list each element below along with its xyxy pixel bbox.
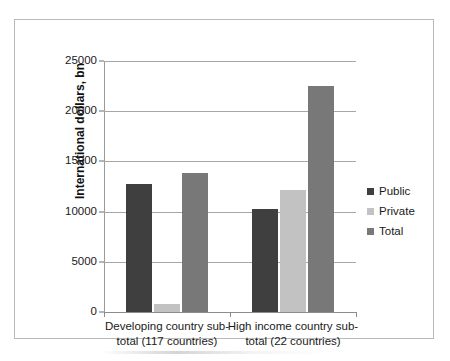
x-axis-tick-mark <box>230 312 231 317</box>
chart-figure: International dollars, bn 25000200001500… <box>0 0 450 361</box>
bar-private-1 <box>154 304 180 312</box>
bar-group <box>230 61 356 312</box>
legend-item-total: Total <box>367 221 439 241</box>
plot-area <box>104 61 356 312</box>
x-axis-tick-mark <box>104 312 105 317</box>
legend-item-private: Private <box>367 201 439 221</box>
legend-label: Private <box>379 205 415 217</box>
legend-item-public: Public <box>367 181 439 201</box>
y-axis-tick-marks <box>15 61 105 312</box>
legend-swatch-icon <box>367 208 374 215</box>
bar-total-2 <box>308 86 334 312</box>
chart-legend: PublicPrivateTotal <box>367 181 439 241</box>
bar-public-2 <box>252 209 278 312</box>
bar-total-1 <box>182 173 208 312</box>
chart-frame: International dollars, bn 25000200001500… <box>14 19 434 339</box>
bar-public-1 <box>126 184 152 313</box>
x-axis-category-label: High income country sub-total (22 countr… <box>214 319 372 348</box>
x-axis-category-label-line: total (22 countries) <box>214 334 372 349</box>
scan-artifact <box>100 351 330 354</box>
legend-swatch-icon <box>367 188 374 195</box>
bar-private-2 <box>280 190 306 312</box>
x-axis-tick-mark <box>356 312 357 317</box>
legend-label: Public <box>379 185 410 197</box>
x-axis-category-label-line: High income country sub- <box>214 319 372 334</box>
legend-label: Total <box>379 225 403 237</box>
legend-swatch-icon <box>367 228 374 235</box>
bar-group <box>104 61 230 312</box>
